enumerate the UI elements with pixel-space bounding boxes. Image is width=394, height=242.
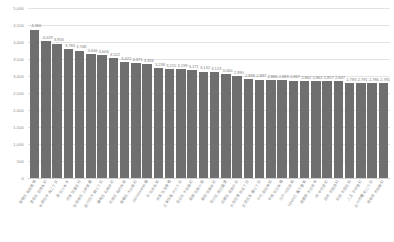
- bar-slot: 4,029: [41, 8, 50, 178]
- bar-value-label: 3,421: [121, 56, 131, 61]
- bar[interactable]: [232, 76, 241, 178]
- bar-slot: 3,784: [64, 8, 73, 178]
- bar[interactable]: [210, 72, 219, 178]
- y-axis-tick-label: 3,500: [13, 57, 24, 62]
- bar-slot: 3,199: [176, 8, 185, 178]
- bar-value-label: 3,215: [166, 63, 176, 68]
- x-axis: 新宿区高田馬場豊島区池袋本町中野区中央二丁目港区六本木渋谷区道玄坂世田谷区三軒茶…: [28, 179, 390, 241]
- bar-slot: 2,793: [345, 8, 354, 178]
- bar-slot: 3,956: [52, 8, 61, 178]
- bar[interactable]: [131, 63, 140, 178]
- bar-slot: 2,786: [367, 8, 376, 178]
- bar[interactable]: [356, 83, 365, 178]
- bar[interactable]: [97, 55, 106, 178]
- y-axis-tick-label: 4,500: [13, 23, 24, 28]
- bar[interactable]: [289, 81, 298, 178]
- bar-slot: 2,886: [266, 8, 275, 178]
- bar-slot: 2,857: [322, 8, 331, 178]
- bar-value-label: 3,371: [132, 57, 142, 62]
- bar[interactable]: [311, 81, 320, 178]
- bar[interactable]: [41, 41, 50, 178]
- y-axis-tick-label: 4,000: [13, 40, 24, 45]
- bar-slot: 3,748: [75, 8, 84, 178]
- bar-value-label: 3,522: [110, 52, 120, 57]
- bar[interactable]: [109, 58, 118, 178]
- bar-slot: 2,862: [300, 8, 309, 178]
- bar[interactable]: [64, 49, 73, 178]
- bar[interactable]: [221, 74, 230, 178]
- bar[interactable]: [367, 83, 376, 178]
- bar[interactable]: [199, 72, 208, 178]
- bar[interactable]: [30, 30, 39, 178]
- bar-value-label: 2,793: [346, 77, 356, 82]
- bar-value-label: 4,366: [31, 23, 41, 28]
- bar-value-label: 2,990: [234, 70, 244, 75]
- bar-slot: 3,171: [187, 8, 196, 178]
- y-axis-tick-label: 2,500: [13, 91, 24, 96]
- bar-slot: 2,847: [334, 8, 343, 178]
- bar[interactable]: [120, 62, 129, 178]
- bar-value-label: 2,781: [380, 77, 390, 82]
- y-axis-tick-label: 1,000: [13, 142, 24, 147]
- bar-chart: 05001,0001,5002,0002,5003,0003,5004,0004…: [0, 0, 394, 242]
- bar[interactable]: [187, 70, 196, 178]
- y-axis-tick-label: 500: [17, 159, 24, 164]
- x-axis-slot: 西東京市田無町: [379, 179, 388, 241]
- y-axis-tick-label: 5,000: [13, 6, 24, 11]
- bar-value-label: 2,883: [279, 74, 289, 79]
- bar[interactable]: [266, 80, 275, 178]
- bar-value-label: 3,646: [87, 48, 97, 53]
- bar-value-label: 3,199: [177, 63, 187, 68]
- bar[interactable]: [176, 69, 185, 178]
- bar[interactable]: [154, 68, 163, 178]
- bar-value-label: 2,786: [369, 77, 379, 82]
- bar-value-label: 3,132: [200, 65, 210, 70]
- bar-value-label: 2,791: [357, 77, 367, 82]
- bar[interactable]: [255, 80, 264, 178]
- bar-slot: 3,421: [120, 8, 129, 178]
- bar-value-label: 3,238: [155, 62, 165, 67]
- bar-slot: 2,867: [289, 8, 298, 178]
- bar-slot: 3,060: [221, 8, 230, 178]
- bar[interactable]: [379, 83, 388, 178]
- bar-slot: 3,522: [109, 8, 118, 178]
- bar-value-label: 3,956: [54, 37, 64, 42]
- bar-slot: 2,791: [356, 8, 365, 178]
- bar-value-label: 2,886: [267, 74, 277, 79]
- bar-slot: 3,238: [154, 8, 163, 178]
- bar-value-label: 3,171: [189, 64, 199, 69]
- bar-slot: 3,215: [165, 8, 174, 178]
- y-axis-tick-label: 3,000: [13, 74, 24, 79]
- bar-slot: 4,366: [30, 8, 39, 178]
- bar-value-label: 4,029: [42, 35, 52, 40]
- bar[interactable]: [75, 51, 84, 178]
- bar-value-label: 2,867: [290, 74, 300, 79]
- bar-value-label: 3,060: [222, 68, 232, 73]
- y-axis-tick-label: 0: [22, 176, 24, 181]
- bar[interactable]: [86, 54, 95, 178]
- bars-container: 4,3664,0293,9563,7843,7483,6463,6063,522…: [28, 8, 390, 178]
- bar[interactable]: [277, 80, 286, 178]
- bar-value-label: 2,862: [301, 75, 311, 80]
- bar-slot: 2,899: [244, 8, 253, 178]
- y-axis-tick-label: 2,000: [13, 108, 24, 113]
- bar[interactable]: [345, 83, 354, 178]
- bar[interactable]: [244, 79, 253, 178]
- bar-slot: 3,132: [199, 8, 208, 178]
- bar-slot: 3,371: [131, 8, 140, 178]
- bar-slot: 3,123: [210, 8, 219, 178]
- bar-slot: 3,646: [86, 8, 95, 178]
- bar-slot: 2,883: [277, 8, 286, 178]
- bar[interactable]: [334, 81, 343, 178]
- bar[interactable]: [142, 64, 151, 178]
- bar[interactable]: [52, 44, 61, 179]
- bar-slot: 2,990: [232, 8, 241, 178]
- bar-slot: 2,781: [379, 8, 388, 178]
- y-axis-tick-label: 1,500: [13, 125, 24, 130]
- y-axis: 05001,0001,5002,0002,5003,0003,5004,0004…: [0, 8, 26, 178]
- bar[interactable]: [300, 81, 309, 178]
- bar[interactable]: [322, 81, 331, 178]
- bar-value-label: 3,784: [65, 43, 75, 48]
- plot-area: 4,3664,0293,9563,7843,7483,6463,6063,522…: [28, 8, 390, 178]
- bar[interactable]: [165, 69, 174, 178]
